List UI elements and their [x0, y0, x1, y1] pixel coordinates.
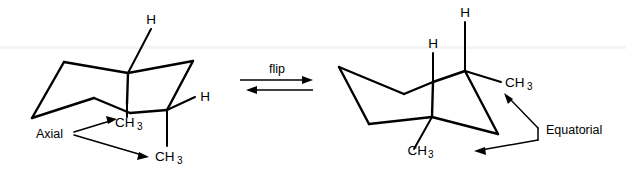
- axial-arrow-upper-shaft: [74, 121, 110, 132]
- left-methyl-lower-label: CH 3: [155, 149, 183, 166]
- left-h-top-label: H: [146, 12, 156, 27]
- right-methyl-lower-subscript: 3: [428, 149, 434, 160]
- right-ring-bond-4: [433, 71, 465, 82]
- right-ring-bond-2: [339, 67, 404, 94]
- left-ring-bond-6: [94, 98, 130, 113]
- left-ring-bond-inner-vertical: [127, 73, 128, 104]
- equatorial-arrow-upper-shaft: [509, 98, 538, 128]
- right-methyl-lower-text: CH: [408, 143, 428, 158]
- equilibrium-arrows: [240, 76, 313, 94]
- reverse-arrow-head: [246, 86, 257, 94]
- equatorial-arrow-lower-shaft: [481, 140, 538, 150]
- left-ring-bond-3: [128, 61, 193, 73]
- figure-canvas: H H CH 3 CH 3 Axial flip H H CH 3 CH 3 E…: [0, 0, 626, 175]
- equatorial-callout-label: Equatorial: [546, 123, 602, 137]
- left-h-right-label: H: [200, 89, 210, 104]
- right-methyl-right-label: CH 3: [505, 75, 533, 92]
- right-ring-bond-6: [432, 117, 498, 134]
- right-h-left-label: H: [428, 36, 438, 51]
- left-ring-bond-2: [64, 62, 128, 73]
- right-h-top-label: H: [460, 5, 470, 20]
- equatorial-arrow-lower-head: [474, 147, 486, 155]
- left-ring-bond-4: [167, 61, 193, 110]
- left-bond-to-h-top: [128, 29, 151, 73]
- right-methyl-right-subscript: 3: [527, 81, 533, 92]
- equatorial-arrow-upper-head: [504, 93, 513, 104]
- right-ring-bond-1: [339, 67, 369, 124]
- flip-label: flip: [269, 62, 285, 76]
- right-ring-bond-3: [404, 82, 433, 94]
- left-methyl-upper-label: CH 3: [115, 115, 143, 132]
- right-methyl-lower-label: CH 3: [408, 143, 435, 160]
- right-methyl-right-text: CH: [505, 75, 525, 90]
- forward-arrow-head: [302, 76, 313, 84]
- left-methyl-lower-text: CH: [155, 149, 175, 164]
- right-chair-skeleton: [339, 67, 498, 134]
- left-methyl-lower-subscript: 3: [177, 155, 183, 166]
- left-methyl-upper-text: CH: [115, 115, 135, 130]
- chemistry-figure: H H CH 3 CH 3 Axial flip H H CH 3 CH 3 E…: [0, 0, 626, 175]
- axial-callout-label: Axial: [36, 127, 63, 141]
- equatorial-callout-arrows: [474, 93, 538, 155]
- axial-arrow-lower-shaft: [74, 135, 142, 155]
- axial-arrow-lower-head: [137, 152, 149, 160]
- right-ring-bond-7: [369, 117, 432, 124]
- left-methyl-upper-subscript: 3: [137, 121, 143, 132]
- right-ring-bond-inner-vertical: [432, 82, 433, 117]
- left-ring-bond-5: [130, 110, 167, 113]
